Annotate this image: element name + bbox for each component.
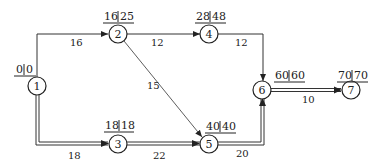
svg-text:4: 4 (206, 28, 213, 41)
edge-duration-label: 12 (235, 37, 248, 48)
edge-duration-label: 12 (151, 37, 164, 48)
svg-text:0: 0 (26, 63, 33, 76)
edge-duration-label: 16 (70, 37, 83, 48)
svg-text:70: 70 (354, 69, 368, 82)
network-diagram: 16 18 12 15 22 12 20 10 (0, 0, 370, 165)
edge-1-3: 18 (36, 95, 109, 161)
svg-text:3: 3 (115, 138, 122, 151)
node-3: 3 18 18 (104, 119, 135, 153)
svg-text:6: 6 (259, 84, 266, 97)
edge-duration-label: 15 (147, 80, 160, 91)
edge-4-6: 12 (218, 34, 263, 81)
edge-6-7: 10 (271, 87, 342, 106)
edge-duration-label: 20 (236, 148, 249, 159)
node-2: 2 16 25 (103, 10, 134, 43)
svg-text:2: 2 (115, 28, 122, 41)
svg-text:40: 40 (222, 120, 236, 133)
node-6: 6 60 60 (253, 69, 305, 99)
svg-text:1: 1 (34, 80, 41, 93)
svg-text:7: 7 (348, 84, 355, 97)
edge-duration-label: 22 (153, 150, 166, 161)
svg-text:18: 18 (105, 119, 119, 132)
svg-text:40: 40 (206, 120, 220, 133)
node-5: 5 40 40 (200, 120, 236, 153)
edge-2-4: 12 (127, 34, 200, 48)
edge-duration-label: 18 (68, 150, 81, 161)
edge-2-5: 15 (124, 41, 202, 137)
svg-text:5: 5 (206, 138, 213, 151)
node-7: 7 70 70 (337, 69, 368, 99)
edge-1-2: 16 (37, 34, 108, 77)
svg-text:60: 60 (291, 69, 305, 82)
svg-text:16: 16 (104, 10, 118, 23)
svg-text:0: 0 (16, 63, 23, 76)
edge-3-5: 22 (127, 140, 200, 161)
svg-text:28: 28 (196, 10, 210, 23)
svg-text:25: 25 (120, 10, 134, 23)
svg-text:48: 48 (212, 10, 226, 23)
node-1: 1 0 0 (14, 63, 46, 95)
svg-text:18: 18 (121, 119, 135, 132)
node-4: 4 28 48 (195, 10, 226, 43)
svg-text:60: 60 (275, 69, 289, 82)
svg-text:70: 70 (338, 69, 352, 82)
edge-duration-label: 10 (302, 94, 315, 105)
